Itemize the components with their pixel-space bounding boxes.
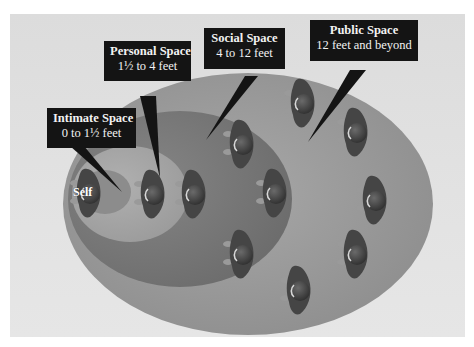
public-space-callout: Public Space 12 feet and beyond [310,20,418,61]
intimate-space-callout: Intimate Space 0 to 1½ feet [47,108,136,148]
diagram-frame: Intimate Space 0 to 1½ feet Personal Spa… [10,14,465,337]
public-space-title: Public Space [316,23,412,38]
social-space-title: Social Space [210,31,279,46]
social-space-range: 4 to 12 feet [210,46,279,61]
personal-space-range: 1½ to 4 feet [110,59,185,74]
proxemics-diagram: Intimate Space 0 to 1½ feet Personal Spa… [0,0,474,347]
intimate-space-range: 0 to 1½ feet [53,126,130,141]
intimate-space-title: Intimate Space [53,111,130,126]
personal-space-title: Personal Space [110,44,185,59]
personal-space-callout: Personal Space 1½ to 4 feet [104,41,191,81]
public-space-range: 12 feet and beyond [316,38,412,53]
self-label: Self [73,185,92,200]
social-space-callout: Social Space 4 to 12 feet [204,28,285,69]
